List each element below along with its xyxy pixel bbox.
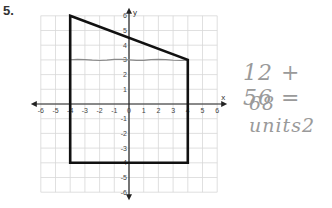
svg-text:1: 1 <box>123 86 127 93</box>
svg-text:5: 5 <box>201 107 205 114</box>
handwritten-answer: 68 units2 <box>249 92 332 136</box>
svg-text:-3: -3 <box>121 145 127 152</box>
svg-text:2: 2 <box>123 71 127 78</box>
svg-text:-1: -1 <box>121 115 127 122</box>
area-divider-line <box>70 59 188 60</box>
svg-text:-3: -3 <box>82 107 88 114</box>
svg-text:0: 0 <box>127 107 131 114</box>
svg-text:-2: -2 <box>121 130 127 137</box>
svg-text:-5: -5 <box>52 107 58 114</box>
svg-text:-6: -6 <box>38 107 44 114</box>
svg-text:5: 5 <box>123 27 127 34</box>
svg-text:4: 4 <box>123 42 127 49</box>
svg-text:6: 6 <box>123 12 127 19</box>
svg-text:2: 2 <box>156 107 160 114</box>
svg-text:-5: -5 <box>121 174 127 181</box>
svg-text:6: 6 <box>215 107 219 114</box>
svg-text:-1: -1 <box>111 107 117 114</box>
svg-text:-6: -6 <box>121 189 127 196</box>
x-axis-label: x <box>221 93 225 102</box>
svg-text:1: 1 <box>142 107 146 114</box>
svg-text:-2: -2 <box>96 107 102 114</box>
svg-text:3: 3 <box>171 107 175 114</box>
y-axis-label: y <box>133 8 137 17</box>
